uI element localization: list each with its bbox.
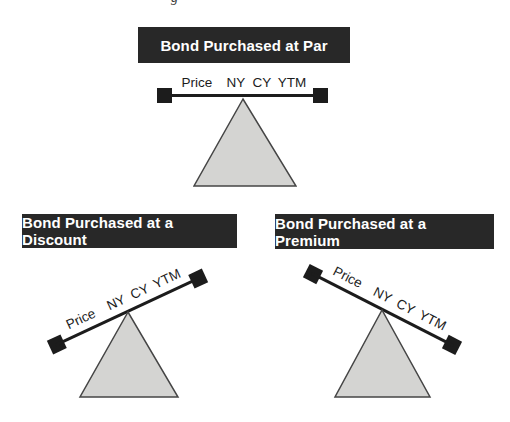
par-title: Bond Purchased at Par (160, 37, 327, 54)
bond-seesaw-figure: g Bond Purchased at Par Price NY CY YTM … (0, 0, 510, 422)
par-label-price: Price (182, 75, 213, 90)
cropped-caption-fragment: g (171, 0, 178, 6)
premium-title-bar: Bond Purchased at a Premium (275, 214, 494, 249)
par-label-cy: CY (253, 75, 272, 90)
par-fulcrum-shape (194, 99, 296, 186)
par-label-ny: NY (227, 75, 246, 90)
premium-fulcrum-shape (335, 310, 430, 397)
premium-fulcrum-triangle (333, 308, 432, 399)
premium-title: Bond Purchased at a Premium (275, 215, 494, 249)
discount-title-bar: Bond Purchased at a Discount (22, 214, 237, 248)
premium-label-ny: NY (371, 284, 395, 306)
discount-fulcrum-triangle (78, 310, 180, 399)
discount-fulcrum-shape (80, 312, 178, 397)
par-fulcrum-triangle (193, 97, 297, 188)
par-title-bar: Bond Purchased at Par (138, 27, 350, 63)
discount-title: Bond Purchased at a Discount (22, 214, 237, 248)
par-label-ytm: YTM (278, 75, 307, 90)
